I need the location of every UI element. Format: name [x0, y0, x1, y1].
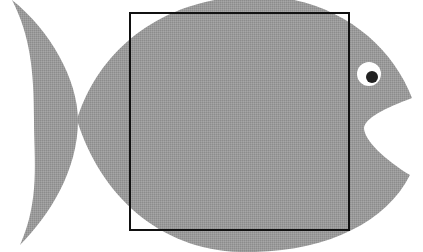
- fish-tail: [12, 0, 78, 245]
- fish-illustration: [0, 0, 423, 252]
- eye-icon: [357, 62, 381, 86]
- fish-body: [77, 0, 412, 252]
- illustration-canvas: Grey fish silhouette with open mouth fac…: [0, 0, 423, 252]
